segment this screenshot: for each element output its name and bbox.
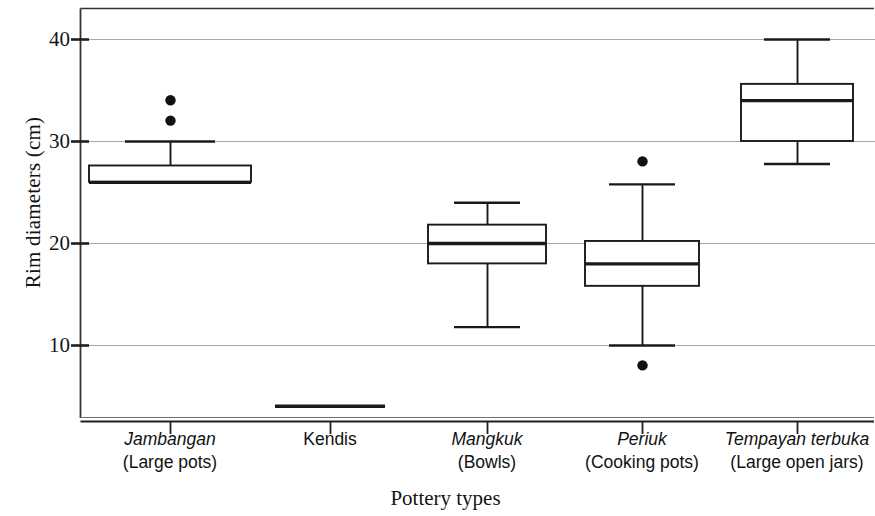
box-plot-series (89, 39, 853, 406)
box-plot-periuk (585, 156, 699, 370)
category-native-name: Periuk (585, 428, 699, 451)
category-gloss: (Cooking pots) (585, 451, 699, 474)
x-category-label-group: Jambangan(Large pots)KendisMangkuk(Bowls… (0, 428, 875, 484)
x-axis-title: Pottery types (0, 486, 875, 511)
x-category-label-4: Periuk(Cooking pots) (585, 428, 699, 474)
category-native-name: Mangkuk (451, 428, 522, 451)
box-plot-jambangan (89, 95, 251, 182)
x-category-label-3: Mangkuk(Bowls) (451, 428, 522, 474)
category-native-name: Kendis (303, 428, 357, 451)
x-category-label-2: Kendis (303, 428, 357, 451)
x-category-label-5: Tempayan terbuka(Large open jars) (725, 428, 869, 474)
x-axis-title-text: Pottery types (390, 486, 500, 510)
box-plot-tempayan-terbuka (741, 39, 853, 164)
box-plot-mangkuk (428, 202, 546, 327)
boxplot-figure: Rim diameters (cm) 40 30 20 10 Jambangan… (0, 0, 875, 516)
category-gloss: (Bowls) (451, 451, 522, 474)
plot-frame (81, 9, 875, 422)
category-native-name: Jambangan (123, 428, 217, 451)
category-gloss: (Large pots) (123, 451, 217, 474)
category-native-name: Tempayan terbuka (725, 428, 869, 451)
category-gloss: (Large open jars) (725, 451, 869, 474)
x-category-label-1: Jambangan(Large pots) (123, 428, 217, 474)
